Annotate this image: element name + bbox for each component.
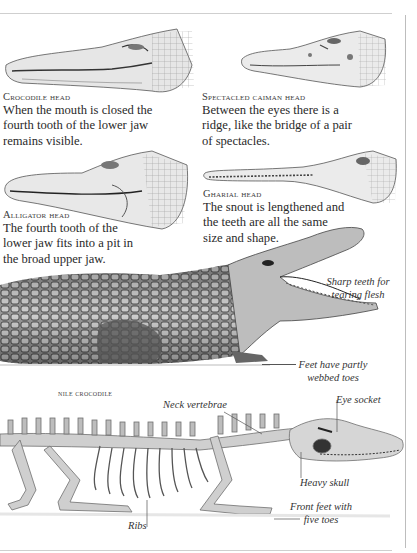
front-feet-label: Front feet with five toes [286,500,356,526]
label-line: Front feet with [286,500,356,513]
heavy-skull-label: Heavy skull [300,476,370,489]
label-line: five toes [286,513,356,526]
eye-socket-label: Eye socket [336,393,396,406]
neck-vertebrae-leader-line [0,0,417,553]
ribs-label: Ribs [128,519,148,532]
